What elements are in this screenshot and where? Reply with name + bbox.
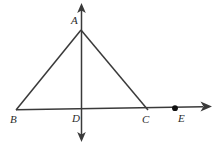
point-e-dot bbox=[172, 105, 178, 111]
vertex-label-e: E bbox=[178, 113, 185, 124]
horizontal-ray-group bbox=[16, 102, 212, 112]
geometry-figure: A B C D E bbox=[0, 0, 219, 152]
vertex-label-c: C bbox=[142, 114, 149, 125]
vertex-label-d: D bbox=[72, 113, 80, 124]
segment-ac bbox=[81, 30, 148, 110]
vertex-label-b: B bbox=[10, 114, 17, 125]
segment-ab bbox=[16, 30, 81, 110]
geometry-canvas bbox=[0, 0, 219, 152]
vertex-label-a: A bbox=[71, 15, 78, 26]
